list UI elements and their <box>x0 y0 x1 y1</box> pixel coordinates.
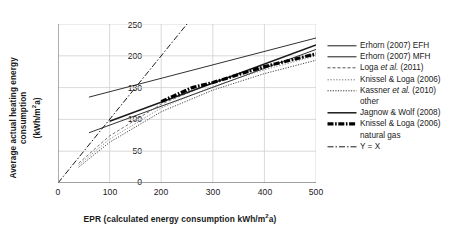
x-tick-300: 300 <box>193 188 233 197</box>
legend-label-italic: et al. <box>381 63 399 72</box>
legend-label: Erhorn (2007) EFH <box>360 40 429 51</box>
legend-swatch-icon <box>327 62 357 73</box>
legend-item-4: Kassner et al. (2010) <box>327 85 463 96</box>
legend-swatch-icon <box>327 40 357 51</box>
legend-item-0: Erhorn (2007) EFH <box>327 40 463 51</box>
x-tick-100: 100 <box>90 188 130 197</box>
y-axis-title-line1: Average actual heating energy consumptio… <box>9 57 28 178</box>
legend: Erhorn (2007) EFHErhorn (2007) MFHLoga e… <box>327 40 463 152</box>
legend-item-1: Erhorn (2007) MFH <box>327 51 463 62</box>
legend-line-sample <box>327 141 357 152</box>
legend-line-sample <box>327 40 357 51</box>
legend-line-sample <box>327 85 357 96</box>
legend-line-sample <box>327 51 357 62</box>
legend-label-continued: other <box>360 96 379 107</box>
legend-line-sample <box>327 62 357 73</box>
x-tick-500: 500 <box>296 188 336 197</box>
legend-swatch-icon <box>327 107 357 118</box>
legend-item-6: Knissel & Loga (2006) <box>327 118 463 129</box>
x-tick-400: 400 <box>245 188 285 197</box>
x-axis-title: EPR (calculated energy consumption kWh/m… <box>30 213 330 224</box>
legend-label: Knissel & Loga (2006) <box>360 118 441 129</box>
legend-item-6-continuation: natural gas <box>327 130 463 141</box>
chart-figure: Average actual heating energy consumptio… <box>0 0 463 234</box>
legend-label: Jagnow & Wolf (2008) <box>360 107 440 118</box>
legend-item-5: Jagnow & Wolf (2008) <box>327 107 463 118</box>
legend-item-4-continuation: other <box>327 96 463 107</box>
legend-item-7: Y = X <box>327 141 463 152</box>
legend-swatch-icon <box>327 85 357 96</box>
series-line-3 <box>79 56 316 165</box>
legend-swatch-icon <box>327 118 357 129</box>
legend-line-sample <box>327 118 357 129</box>
plot-canvas <box>58 24 316 183</box>
y-axis-title-line2: (kWh/m2a) <box>33 97 42 138</box>
legend-label-italic: et al. <box>392 86 410 95</box>
legend-label-continued: natural gas <box>360 130 401 141</box>
series-line-2 <box>79 54 316 163</box>
legend-label: Y = X <box>360 141 380 152</box>
legend-line-sample <box>327 107 357 118</box>
legend-item-2: Loga et al. (2011) <box>327 62 463 73</box>
legend-swatch-icon <box>327 51 357 62</box>
x-tick-200: 200 <box>141 188 181 197</box>
y-axis-title: Average actual heating energy consumptio… <box>9 33 43 203</box>
legend-label: Knissel & Loga (2006) <box>360 74 441 85</box>
series-line-0 <box>89 38 316 97</box>
x-tick-0: 0 <box>38 188 78 197</box>
legend-swatch-icon <box>327 141 357 152</box>
legend-line-sample <box>327 74 357 85</box>
legend-label: Loga et al. (2011) <box>360 62 424 73</box>
legend-label: Erhorn (2007) MFH <box>360 51 431 62</box>
legend-swatch-icon <box>327 74 357 85</box>
legend-label: Kassner et al. (2010) <box>360 85 436 96</box>
legend-item-3: Knissel & Loga (2006) <box>327 74 463 85</box>
plot-area <box>58 24 316 183</box>
